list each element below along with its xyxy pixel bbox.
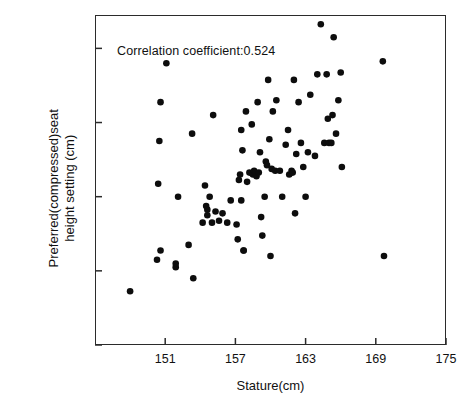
data-point [295,99,302,106]
data-point [305,149,312,156]
data-point [333,130,340,137]
data-point [267,253,274,260]
data-point [239,147,246,154]
data-point [238,127,245,134]
data-point [127,288,134,295]
data-point [154,256,161,263]
data-point [212,208,219,215]
data-point [238,197,245,204]
data-point [258,214,265,221]
data-point [381,253,388,260]
data-point [285,127,292,134]
data-point [261,193,268,200]
data-point [216,217,223,224]
data-point [210,112,217,119]
data-point [307,91,314,98]
data-point [254,99,261,106]
y-axis-title-line1: Preferred(compressed)seat [46,63,62,313]
data-point [273,97,280,104]
data-point [234,236,241,243]
data-point [312,153,319,160]
data-point [172,260,179,267]
data-point [155,180,162,187]
data-point [190,275,197,282]
data-point [255,169,262,176]
data-point [279,193,286,200]
data-point [175,193,182,200]
data-point [259,232,266,239]
data-point [330,34,337,41]
x-axis-ticks [165,338,446,345]
y-axis-title-line2: height setting (cm) [62,63,78,313]
data-point [329,112,336,119]
data-point [277,167,284,174]
data-point [293,151,300,158]
data-point [209,219,216,226]
data-point [199,219,206,226]
data-point [156,138,163,145]
data-point [270,108,277,115]
data-point [240,247,247,254]
data-point [302,193,309,200]
data-point [289,169,296,176]
data-point [244,179,251,186]
data-point [328,140,335,147]
data-point [248,121,255,128]
data-point [300,164,307,171]
data-point [157,247,164,254]
scatter-plot-figure: Correlation coefficient:0.524 1511571631… [0,0,470,411]
x-tick-label: 175 [436,352,457,366]
correlation-annotation: Correlation coefficient:0.524 [117,44,275,58]
x-tick-label: 163 [295,352,316,366]
data-point [282,141,289,148]
data-point [206,193,213,200]
data-point [224,219,231,226]
data-point [233,221,240,228]
y-axis-ticks [95,48,102,345]
data-point [204,212,211,219]
x-tick-label: 157 [225,352,246,366]
y-axis-title: Preferred(compressed)seat height setting… [46,63,79,313]
x-axis-title: Stature(cm) [95,378,446,393]
data-point [335,97,342,104]
data-point [257,149,264,156]
data-point-group [127,21,387,295]
data-point [292,210,299,217]
data-point [314,71,321,78]
data-point [202,182,209,189]
data-point [219,210,226,217]
data-point [266,136,273,143]
x-tick-label: 151 [155,352,176,366]
data-point [163,60,170,67]
data-point [157,99,164,106]
data-point [291,77,298,84]
data-point [339,164,346,171]
data-point [337,69,344,76]
data-point [243,108,250,115]
data-point [189,130,196,137]
data-point [380,58,387,65]
data-point [298,140,305,147]
data-point [236,177,243,184]
data-point [323,71,330,78]
x-tick-label: 169 [365,352,386,366]
data-point [227,197,234,204]
data-point [237,171,244,178]
data-point [265,77,272,84]
data-point [185,242,192,249]
data-point [318,21,325,28]
